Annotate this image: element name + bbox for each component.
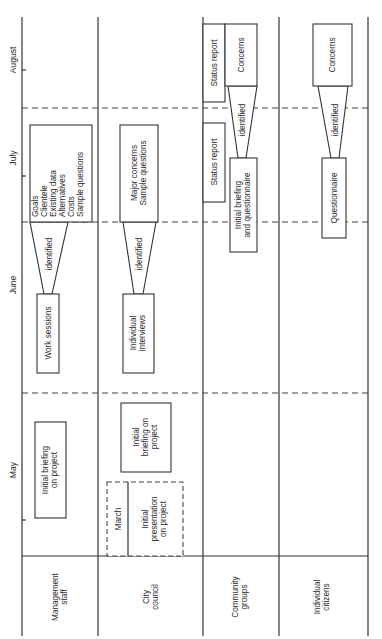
status-report-label: Status report (210, 138, 219, 186)
initial-presentation-label: on project (159, 500, 168, 537)
month-may: May (8, 461, 18, 478)
work-sessions-label: Work sessions (44, 306, 53, 359)
goals-item: Alternatives (58, 174, 67, 217)
concerns-label: Concerns (237, 37, 246, 72)
initial-briefing-label: briefing on (141, 417, 150, 456)
row-individual-citizens-line2: citizens (322, 583, 331, 610)
concerns-label: Concerns (328, 37, 337, 72)
community-groups-lane: Status report identified Concerns Status… (203, 24, 257, 252)
row-community-groups-line2: groups (240, 584, 249, 609)
month-august: August (8, 46, 18, 73)
initial-presentation-label: presentation (150, 496, 159, 542)
row-management-staff-line2: staff (60, 589, 69, 605)
row-headers: Management staff City council Community … (51, 572, 331, 621)
identified-label: identified (135, 237, 144, 270)
questionnaire-label: Questionnaire (330, 172, 339, 223)
goals-item: Sample questions (76, 152, 85, 217)
initial-presentation-label: Initial (141, 509, 150, 528)
management-staff-lane: identified Goals Clientele Existing data… (30, 125, 92, 518)
initial-briefing-label: project (150, 424, 159, 449)
initial-briefing-label: Initial briefing (41, 445, 50, 494)
individual-citizens-lane: identified Concerns Questionnaire (313, 24, 352, 238)
major-concerns-label: Major concerns (130, 145, 139, 201)
identified-label: identified (45, 237, 54, 270)
row-city-council-line2: council (151, 584, 160, 610)
goals-item: Costs (67, 196, 76, 217)
goals-item: Existing data (49, 170, 58, 217)
row-management-staff-line1: Management (51, 572, 60, 621)
identified-label: identified (238, 103, 247, 136)
month-june: June (8, 275, 18, 294)
grid-lines (22, 17, 368, 636)
row-individual-citizens-line1: Individual (313, 580, 322, 615)
city-council-lane: identified Major concerns Sample questio… (107, 125, 183, 556)
individual-interviews-label: interviews (138, 315, 147, 351)
month-july: July (8, 150, 18, 166)
row-city-council-line1: City (142, 589, 151, 604)
goals-item: Goals (31, 196, 40, 217)
identified-label: identified (331, 103, 340, 136)
stakeholder-timeline-diagram: August July June May Management staff Ci… (0, 0, 382, 639)
status-report-label: Status report (210, 39, 219, 87)
initial-briefing-label: Initial briefing (234, 180, 243, 229)
row-community-groups-line1: Community (231, 575, 240, 617)
march-label: March (114, 507, 123, 530)
individual-interviews-label: Individual (129, 316, 138, 351)
month-labels: August July June May (8, 46, 18, 478)
goals-item: Clientele (40, 185, 49, 217)
sample-questions-label: Sample questions (139, 140, 148, 205)
initial-briefing-label: on project (50, 451, 59, 488)
initial-briefing-label: Initial (132, 427, 141, 446)
initial-briefing-label: and questionnaire (243, 172, 252, 238)
